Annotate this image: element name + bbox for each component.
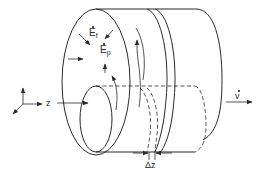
- arrow-ef-2: [105, 30, 113, 39]
- coordinate-axes: [13, 88, 42, 114]
- outer-cylinder: [62, 9, 222, 155]
- label-e-p: Ep: [100, 45, 111, 55]
- slice-ring: [136, 9, 175, 152]
- label-delta-z: Δz: [145, 161, 156, 170]
- label-axis-z: z: [46, 99, 51, 108]
- cylinder-diagram: [0, 0, 261, 175]
- arrow-circulation-inner: [112, 76, 117, 110]
- axis-x-arrow: [13, 104, 23, 114]
- field-arrows: [57, 30, 140, 110]
- label-velocity: v: [235, 92, 240, 101]
- inner-cylinder: [80, 86, 206, 152]
- delta-z-marker: [133, 152, 172, 160]
- arrow-circulation-outer: [137, 40, 138, 60]
- label-e-f: Ef: [89, 28, 98, 38]
- arrow-circulation-line: [138, 60, 140, 107]
